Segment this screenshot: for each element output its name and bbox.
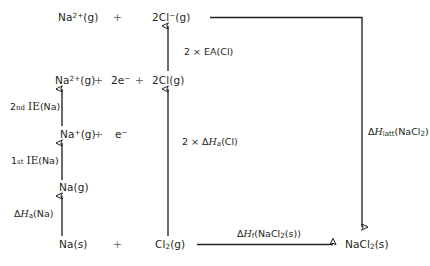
label-first-ionisation-energy: 1st IE(Na)	[11, 155, 59, 166]
species-electron: e−	[115, 129, 128, 140]
label-formation-enthalpy: ΔHf(NaCl2(s))	[237, 229, 301, 240]
plus-sign-row1: +	[113, 12, 122, 23]
label-atomisation-enthalpy-cl: 2 × ΔHa(Cl)	[182, 137, 238, 148]
plus-sign-row2-a: +	[94, 75, 103, 86]
species-na2plus-gas-top: Na2+(g)	[58, 12, 98, 23]
species-chloride-ion-gas: 2Cl−(g)	[152, 12, 191, 23]
species-chlorine-gas: Cl2(g)	[155, 239, 185, 250]
species-sodium-dichloride-solid: NaCl2(s)	[345, 239, 389, 250]
label-second-ionisation-energy: 2nd IE(Na)	[10, 101, 60, 112]
species-sodium-gas: Na(g)	[59, 182, 89, 193]
label-lattice-enthalpy: ΔHlatt(NaCl2)	[368, 127, 429, 138]
species-two-electrons: 2e−	[111, 75, 130, 86]
plus-sign-row5: +	[113, 239, 122, 250]
label-electron-affinity: 2 × EA(Cl)	[184, 47, 233, 57]
species-naplus-gas: Na+(g)	[60, 129, 96, 140]
plus-sign-row2-b: +	[135, 75, 144, 86]
label-atomisation-enthalpy-na: ΔHa(Na)	[14, 209, 53, 220]
species-na2plus-gas: Na2+(g)	[55, 75, 95, 86]
plus-sign-row3: +	[94, 129, 103, 140]
species-chlorine-atoms-gas: 2Cl(g)	[152, 75, 184, 86]
species-sodium-solid: Na(s)	[59, 239, 87, 250]
born-haber-cycle-diagram: Na2+(g) + 2Cl−(g) Na2+(g) + 2e− + 2Cl(g)…	[0, 0, 430, 266]
